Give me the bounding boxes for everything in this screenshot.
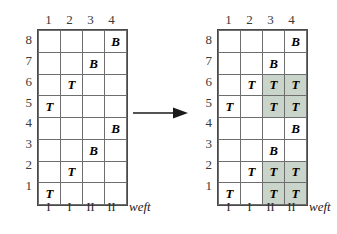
draft-cell-r4-c1[interactable] bbox=[39, 118, 61, 140]
draft-cell-r4-c2[interactable] bbox=[241, 118, 263, 140]
draft-row: B bbox=[219, 118, 307, 140]
draft-row: B bbox=[39, 118, 127, 140]
row-header-7: 7 bbox=[16, 51, 35, 72]
column-header-3: 3 bbox=[260, 12, 281, 30]
draft-cell-r2-c4[interactable] bbox=[105, 161, 127, 183]
draft-cell-r5-c2[interactable] bbox=[61, 96, 83, 118]
draft-cell-r5-c3[interactable]: T bbox=[263, 96, 285, 118]
draft-cell-r8-c4[interactable]: B bbox=[285, 31, 307, 53]
draft-cell-r7-c4[interactable] bbox=[105, 52, 127, 74]
row-header-2: 2 bbox=[196, 155, 215, 176]
draft-cell-r4-c1[interactable] bbox=[219, 118, 241, 140]
draft-grid-after: BBTTTTTTBBTTTTTT bbox=[218, 30, 302, 196]
transformation-arrow bbox=[133, 106, 189, 120]
column-header-1: 1 bbox=[38, 12, 59, 30]
draft-cell-r4-c4[interactable]: B bbox=[105, 118, 127, 140]
draft-cell-r5-c4[interactable] bbox=[105, 96, 127, 118]
weft-label-1: I bbox=[38, 200, 59, 215]
draft-cell-r3-c1[interactable] bbox=[39, 139, 61, 161]
row-header-8: 8 bbox=[196, 30, 215, 51]
draft-row: T bbox=[39, 161, 127, 183]
draft-table-after: BBTTTTTTBBTTTTTT bbox=[218, 30, 307, 205]
row-header-2: 2 bbox=[16, 155, 35, 176]
column-header-4: 4 bbox=[101, 12, 122, 30]
draft-cell-r4-c2[interactable] bbox=[61, 118, 83, 140]
draft-cell-r6-c3[interactable]: T bbox=[263, 74, 285, 96]
draft-cell-r4-c3[interactable] bbox=[83, 118, 105, 140]
draft-cell-r3-c2[interactable] bbox=[61, 139, 83, 161]
row-header-8: 8 bbox=[16, 30, 35, 51]
draft-cell-r8-c2[interactable] bbox=[241, 31, 263, 53]
weft-caption: weft bbox=[309, 199, 331, 215]
draft-cell-r3-c3[interactable]: B bbox=[83, 139, 105, 161]
row-header-column-after: 87654321 bbox=[196, 30, 215, 196]
row-header-5: 5 bbox=[196, 92, 215, 113]
column-header-2: 2 bbox=[59, 12, 80, 30]
draft-cell-r7-c3[interactable]: B bbox=[83, 52, 105, 74]
draft-cell-r2-c4[interactable]: T bbox=[285, 161, 307, 183]
draft-cell-r5-c1[interactable]: T bbox=[39, 96, 61, 118]
draft-cell-r6-c2[interactable]: T bbox=[241, 74, 263, 96]
draft-cell-r3-c2[interactable] bbox=[241, 139, 263, 161]
draft-cell-r8-c3[interactable] bbox=[263, 31, 285, 53]
draft-cell-r8-c1[interactable] bbox=[39, 31, 61, 53]
draft-cell-r6-c1[interactable] bbox=[39, 74, 61, 96]
draft-cell-r2-c2[interactable]: T bbox=[61, 161, 83, 183]
draft-cell-r8-c3[interactable] bbox=[83, 31, 105, 53]
draft-panel-after: 1234 87654321 BBTTTTTTBBTTTTTT IIIIIIwef… bbox=[196, 12, 326, 212]
draft-row: TTT bbox=[219, 74, 307, 96]
draft-grid-before: BBTTBBTT bbox=[38, 30, 122, 196]
draft-cell-r5-c3[interactable] bbox=[83, 96, 105, 118]
draft-cell-r6-c3[interactable] bbox=[83, 74, 105, 96]
draft-cell-r6-c4[interactable]: T bbox=[285, 74, 307, 96]
draft-cell-r5-c2[interactable] bbox=[241, 96, 263, 118]
draft-cell-r2-c1[interactable] bbox=[219, 161, 241, 183]
draft-cell-r8-c2[interactable] bbox=[61, 31, 83, 53]
draft-row: TTT bbox=[219, 161, 307, 183]
draft-cell-r4-c3[interactable] bbox=[263, 118, 285, 140]
row-header-1: 1 bbox=[196, 175, 215, 196]
draft-cell-r7-c3[interactable]: B bbox=[263, 52, 285, 74]
draft-cell-r3-c4[interactable] bbox=[105, 139, 127, 161]
draft-cell-r7-c1[interactable] bbox=[219, 52, 241, 74]
draft-cell-r6-c2[interactable]: T bbox=[61, 74, 83, 96]
draft-cell-r3-c3[interactable]: B bbox=[263, 139, 285, 161]
draft-cell-r7-c2[interactable] bbox=[61, 52, 83, 74]
weaving-draft-figure: 1234 87654321 BBTTBBTT IIIIIIweft 1234 8… bbox=[0, 0, 337, 234]
draft-cell-r5-c4[interactable]: T bbox=[285, 96, 307, 118]
draft-cell-r7-c4[interactable] bbox=[285, 52, 307, 74]
row-header-7: 7 bbox=[196, 51, 215, 72]
draft-cell-r2-c2[interactable]: T bbox=[241, 161, 263, 183]
column-header-row-before: 1234 bbox=[38, 12, 122, 30]
draft-cell-r7-c2[interactable] bbox=[241, 52, 263, 74]
draft-cell-r3-c4[interactable] bbox=[285, 139, 307, 161]
row-header-6: 6 bbox=[16, 72, 35, 93]
row-header-column-before: 87654321 bbox=[16, 30, 35, 196]
draft-row: T bbox=[39, 74, 127, 96]
column-header-2: 2 bbox=[239, 12, 260, 30]
row-header-6: 6 bbox=[196, 72, 215, 93]
draft-row: B bbox=[219, 31, 307, 53]
draft-cell-r8-c1[interactable] bbox=[219, 31, 241, 53]
draft-cell-r3-c1[interactable] bbox=[219, 139, 241, 161]
row-header-5: 5 bbox=[16, 92, 35, 113]
column-header-row-after: 1234 bbox=[218, 12, 302, 30]
draft-cell-r6-c1[interactable] bbox=[219, 74, 241, 96]
draft-cell-r4-c4[interactable]: B bbox=[285, 118, 307, 140]
draft-cell-r6-c4[interactable] bbox=[105, 74, 127, 96]
draft-cell-r8-c4[interactable]: B bbox=[105, 31, 127, 53]
column-header-3: 3 bbox=[80, 12, 101, 30]
draft-row: B bbox=[219, 139, 307, 161]
draft-cell-r2-c3[interactable] bbox=[83, 161, 105, 183]
draft-cell-r7-c1[interactable] bbox=[39, 52, 61, 74]
weft-caption: weft bbox=[129, 199, 151, 215]
draft-row: B bbox=[219, 52, 307, 74]
draft-cell-r5-c1[interactable]: T bbox=[219, 96, 241, 118]
draft-cell-r2-c1[interactable] bbox=[39, 161, 61, 183]
weft-label-row-after: IIIIIIweft bbox=[218, 198, 337, 216]
draft-cell-r2-c3[interactable]: T bbox=[263, 161, 285, 183]
row-header-3: 3 bbox=[196, 134, 215, 155]
row-header-1: 1 bbox=[16, 175, 35, 196]
row-header-4: 4 bbox=[16, 113, 35, 134]
row-header-3: 3 bbox=[16, 134, 35, 155]
